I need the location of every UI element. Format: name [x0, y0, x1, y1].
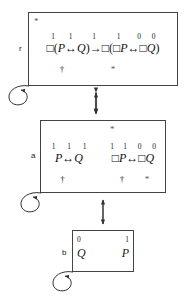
atom-q: Q [74, 151, 83, 165]
world-label-r: r [19, 45, 22, 53]
dagger-marker: † [46, 175, 79, 184]
world-a-right-formula: □P↔□Q [104, 152, 162, 167]
diagram-canvas: r * 111100 □(P↔Q)→□(□P↔□Q) †* a * 111 P↔… [0, 0, 185, 305]
valuation-digit: 1 [47, 33, 60, 41]
world-label-b: b [62, 249, 66, 257]
biconditional-operator: ↔ [65, 41, 77, 55]
biconditional-operator: ↔ [126, 151, 138, 165]
world-b-valuation-row: 01 [77, 236, 129, 245]
atom-q: Q [146, 151, 155, 165]
world-a-right-formula-block: 1100 □P↔□Q [104, 143, 162, 167]
implication-operator: → [90, 41, 102, 55]
valuation-digit: 0 [132, 143, 148, 151]
biconditional-operator: ↔ [128, 41, 140, 55]
valuation-digit: 1 [125, 236, 129, 245]
right-paren: ) [156, 41, 160, 55]
valuation-digit: 0 [148, 33, 160, 41]
world-a-right-marker-row: †* [104, 174, 162, 184]
dagger-marker: † [104, 175, 140, 184]
world-b-content: 01 QP [77, 236, 129, 262]
valuation-digit: 0 [131, 33, 148, 41]
atom-q: Q [77, 41, 86, 55]
world-r-formula: □(P↔Q)→□(□P↔□Q) [33, 42, 173, 57]
valuation-digit: 1 [77, 143, 92, 151]
world-label-a: a [31, 152, 35, 160]
valuation-digit: 1 [60, 33, 82, 41]
world-a-left-marker-row: † [46, 174, 92, 184]
dagger-marker: † [33, 65, 91, 74]
valuation-digit: 1 [61, 143, 77, 151]
world-a-left-formula-block: 111 P↔Q [46, 143, 92, 167]
world-a-top-asterisk: * [110, 125, 115, 134]
self-loop-a [21, 193, 41, 212]
world-r-marker-row: †* [33, 64, 173, 74]
box-operator: □ [138, 151, 145, 165]
valuation-digit: 0 [148, 143, 161, 151]
valuation-digit: 1 [107, 33, 131, 41]
self-loop-b [53, 272, 73, 291]
atom-p: P [122, 247, 129, 262]
world-r-top-asterisk: * [34, 17, 39, 26]
world-r-formula-block: 111100 □(P↔Q)→□(□P↔□Q) [33, 33, 173, 57]
valuation-digit: 1 [82, 33, 107, 41]
atom-p: P [120, 41, 127, 55]
world-b-atom-row: QP [77, 245, 129, 262]
box-operator: □ [112, 151, 119, 165]
world-a-left-formula: P↔Q [46, 152, 92, 167]
biconditional-operator: ↔ [62, 151, 74, 165]
asterisk-marker: * [140, 175, 154, 184]
atom-q: Q [77, 247, 86, 262]
asterisk-marker: * [91, 65, 135, 74]
valuation-digit: 1 [106, 143, 119, 151]
box-operator: □ [140, 41, 147, 55]
atom-p: P [58, 41, 65, 55]
valuation-digit: 0 [77, 236, 81, 245]
valuation-digit: 1 [119, 143, 132, 151]
box-operator: □ [46, 41, 53, 55]
valuation-digit: 1 [46, 143, 61, 151]
box-operator: □ [102, 41, 109, 55]
atom-q: Q [147, 41, 156, 55]
self-loop-r [9, 86, 29, 105]
